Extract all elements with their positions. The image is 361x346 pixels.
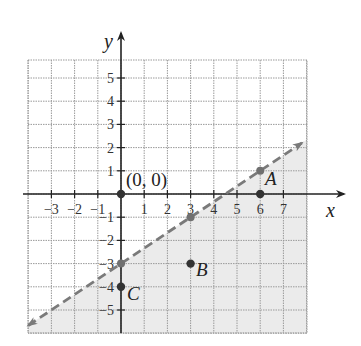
svg-text:4: 4	[107, 94, 114, 109]
point-b-label: B	[196, 259, 208, 280]
svg-text:6: 6	[257, 202, 264, 217]
point-c	[117, 283, 125, 291]
y-axis-label: y	[102, 30, 113, 53]
line-point	[117, 260, 125, 268]
svg-text:−1: −1	[99, 210, 114, 225]
svg-text:−3: −3	[44, 202, 59, 217]
svg-text:−4: −4	[99, 280, 114, 295]
svg-text:−5: −5	[99, 303, 114, 318]
point-b	[186, 259, 194, 267]
x-axis-label: x	[325, 199, 335, 221]
svg-text:4: 4	[210, 202, 217, 217]
point-a	[256, 190, 264, 198]
svg-text:−2: −2	[99, 233, 114, 248]
point-00	[117, 190, 125, 198]
svg-text:1: 1	[141, 202, 148, 217]
svg-text:1: 1	[107, 164, 114, 179]
svg-text:7: 7	[280, 202, 287, 217]
point-c-label: C	[127, 283, 140, 304]
point-a-label: A	[263, 168, 277, 189]
svg-text:−2: −2	[67, 202, 82, 217]
line-point	[187, 213, 195, 221]
svg-text:2: 2	[107, 141, 114, 156]
svg-text:5: 5	[107, 71, 114, 86]
svg-text:5: 5	[234, 202, 241, 217]
svg-text:2: 2	[164, 202, 171, 217]
origin-label: (0, 0)	[126, 169, 167, 191]
inequality-graph: −3−2−1123456754321−1−2−3−4−5 y x (0, 0) …	[0, 0, 361, 346]
line-point	[256, 167, 264, 175]
svg-text:3: 3	[107, 117, 114, 132]
